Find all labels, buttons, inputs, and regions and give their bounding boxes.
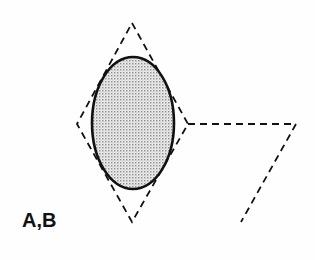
dashed-open-path: [188, 124, 296, 222]
diagram-canvas: A,B: [0, 0, 315, 260]
shaded-ellipse: [92, 57, 174, 189]
figure-label: A,B: [22, 209, 56, 232]
